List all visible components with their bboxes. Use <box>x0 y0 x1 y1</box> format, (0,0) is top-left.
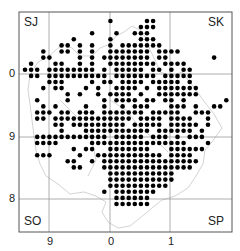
record-dot <box>120 43 125 48</box>
record-dot <box>47 55 52 60</box>
corner-label-sj: SJ <box>24 16 38 28</box>
record-dot <box>206 110 211 115</box>
record-dot <box>108 43 113 48</box>
record-dots <box>23 19 229 207</box>
record-dot <box>169 116 174 121</box>
record-dot <box>133 190 138 195</box>
record-dot <box>120 122 125 127</box>
record-dot <box>187 153 192 158</box>
record-dot <box>120 153 125 158</box>
record-dot <box>47 80 52 85</box>
record-dot <box>145 141 150 146</box>
record-dot <box>84 129 89 134</box>
record-dot <box>120 165 125 170</box>
record-dot <box>157 135 162 140</box>
record-dot <box>139 196 144 201</box>
record-dot <box>133 110 138 115</box>
record-dot <box>120 129 125 134</box>
record-dot <box>145 37 150 42</box>
record-dot <box>35 153 40 158</box>
record-dot <box>145 122 150 127</box>
y-axis-label-0: 0 <box>9 68 15 79</box>
record-dot <box>108 92 113 97</box>
record-dot <box>157 86 162 91</box>
y-axis-label-9: 9 <box>9 131 15 142</box>
record-dot <box>133 98 138 103</box>
record-dot <box>114 74 119 79</box>
record-dot <box>114 190 119 195</box>
record-dot <box>114 183 119 188</box>
record-dot <box>102 165 107 170</box>
record-dot <box>133 49 138 54</box>
record-dot <box>169 171 174 176</box>
record-dot <box>145 19 150 24</box>
record-dot <box>84 74 89 79</box>
record-dot <box>175 147 180 152</box>
record-dot <box>114 86 119 91</box>
record-dot <box>72 74 77 79</box>
record-dot <box>126 55 131 60</box>
record-dot <box>139 135 144 140</box>
record-dot <box>139 147 144 152</box>
record-dot <box>78 55 83 60</box>
record-dot <box>41 110 46 115</box>
record-dot <box>96 135 101 140</box>
record-dot <box>175 74 180 79</box>
record-dot <box>126 49 131 54</box>
record-dot <box>139 141 144 146</box>
record-dot <box>194 92 199 97</box>
record-dot <box>90 43 95 48</box>
record-dot <box>139 43 144 48</box>
record-dot <box>78 61 83 66</box>
record-dot <box>78 68 83 73</box>
record-dot <box>41 141 46 146</box>
record-dot <box>114 196 119 201</box>
record-dot <box>187 68 192 73</box>
record-dot <box>175 153 180 158</box>
record-dot <box>169 122 174 127</box>
record-dot <box>151 61 156 66</box>
record-dot <box>53 104 58 109</box>
record-dot <box>114 55 119 60</box>
record-dot <box>96 74 101 79</box>
record-dot <box>145 98 150 103</box>
record-dot <box>84 116 89 121</box>
record-dot <box>151 159 156 164</box>
record-dot <box>90 80 95 85</box>
record-dot <box>163 74 168 79</box>
record-dot <box>145 25 150 30</box>
record-dot <box>151 177 156 182</box>
record-dot <box>114 202 119 207</box>
record-dot <box>41 153 46 158</box>
record-dot <box>78 135 83 140</box>
record-dot <box>133 147 138 152</box>
record-dot <box>218 104 223 109</box>
record-dot <box>163 55 168 60</box>
record-dot <box>194 104 199 109</box>
record-dot <box>78 110 83 115</box>
record-dot <box>126 129 131 134</box>
record-dot <box>139 104 144 109</box>
record-dot <box>41 135 46 140</box>
record-dot <box>139 55 144 60</box>
record-dot <box>145 159 150 164</box>
record-dot <box>65 49 70 54</box>
record-dot <box>59 135 64 140</box>
record-dot <box>175 122 180 127</box>
record-dot <box>175 80 180 85</box>
record-dot <box>120 202 125 207</box>
record-dot <box>126 183 131 188</box>
record-dot <box>78 92 83 97</box>
record-dot <box>139 165 144 170</box>
record-dot <box>175 92 180 97</box>
record-dot <box>163 80 168 85</box>
record-dot <box>65 135 70 140</box>
record-dot <box>139 177 144 182</box>
record-dot <box>126 116 131 121</box>
record-dot <box>114 49 119 54</box>
record-dot <box>194 159 199 164</box>
record-dot <box>114 61 119 66</box>
record-dot <box>90 61 95 66</box>
record-dot <box>181 68 186 73</box>
record-dot <box>151 183 156 188</box>
